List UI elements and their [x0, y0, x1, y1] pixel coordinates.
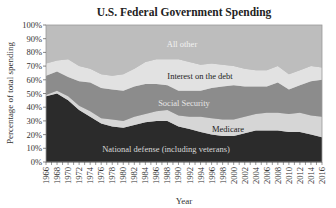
label-interest-on-debt: Interest on the debt [167, 71, 233, 81]
y-tick-label: 20% [26, 130, 42, 140]
x-tick-label: 1988 [162, 167, 172, 184]
x-tick-label: 1976 [96, 167, 106, 184]
x-tick-label: 2000 [229, 167, 239, 184]
y-tick-label: 0% [31, 157, 42, 167]
x-tick-label: 1966 [41, 167, 51, 184]
x-tick-label: 2014 [306, 166, 316, 184]
x-axis: 1966196819701972197419761978198019821984… [41, 162, 327, 184]
x-tick-label: 2012 [295, 167, 305, 184]
x-tick-label: 2016 [317, 167, 327, 184]
label-all-other: All other [167, 39, 198, 49]
x-tick-label: 1986 [151, 167, 161, 184]
x-tick-label: 1970 [63, 167, 73, 184]
x-tick-label: 1980 [118, 167, 128, 184]
y-tick-label: 80% [26, 47, 42, 57]
y-tick-label: 10% [26, 143, 42, 153]
chart-title: U.S. Federal Government Spending [97, 6, 272, 19]
x-tick-label: 1984 [140, 166, 150, 184]
x-tick-label: 2008 [273, 167, 283, 184]
y-tick-label: 50% [26, 89, 42, 99]
x-tick-label: 1982 [129, 167, 139, 184]
x-axis-label: Year [176, 196, 193, 206]
x-tick-label: 2002 [240, 167, 250, 184]
x-tick-label: 1968 [52, 167, 62, 184]
y-tick-label: 40% [26, 102, 42, 112]
y-tick-label: 90% [26, 34, 42, 44]
x-tick-label: 1990 [173, 167, 183, 184]
x-tick-label: 2006 [262, 167, 272, 184]
y-tick-label: 70% [26, 61, 42, 71]
y-tick-label: 60% [26, 75, 42, 85]
x-tick-label: 2004 [251, 166, 261, 184]
y-tick-label: 30% [26, 116, 42, 126]
label-national-defense: National defense (including veterans) [102, 144, 230, 154]
x-tick-label: 1998 [218, 167, 228, 184]
stacked-area-chart: U.S. Federal Government Spending 0%10%20… [0, 0, 336, 208]
y-tick-label: 100% [22, 20, 42, 30]
label-social-security: Social Security [158, 98, 210, 108]
x-tick-label: 1974 [85, 166, 95, 184]
x-tick-label: 1992 [185, 167, 195, 184]
x-tick-label: 1978 [107, 167, 117, 184]
x-tick-label: 1996 [207, 167, 217, 184]
y-axis-label: Percentage of total spending [5, 41, 15, 144]
x-tick-label: 1994 [196, 166, 206, 184]
label-medicare: Medicare [212, 124, 244, 134]
y-axis: 0%10%20%30%40%50%60%70%80%90%100% [22, 20, 46, 167]
x-tick-label: 2010 [284, 167, 294, 184]
x-tick-label: 1972 [74, 167, 84, 184]
